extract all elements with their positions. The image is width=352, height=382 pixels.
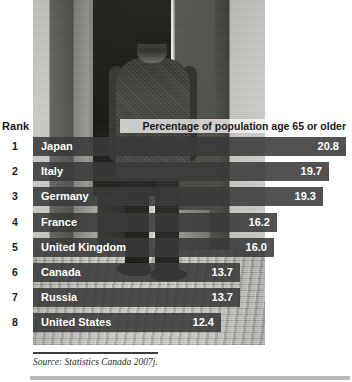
bar-row-rank: 4 (0, 213, 30, 232)
bar-row: 3Germany19.3 (0, 187, 352, 206)
bottom-divider-rule (30, 376, 350, 380)
bar-value-label: 13.7 (212, 263, 233, 282)
bar-row: 5United Kingdom16.0 (0, 238, 352, 257)
bar-country-label: Russia (41, 288, 77, 307)
bar-row: 6Canada13.7 (0, 263, 352, 282)
chart-overlay: Rank Percentage of population age 65 or … (0, 0, 352, 382)
bar-row-rank: 5 (0, 238, 30, 257)
bar-row-rank: 1 (0, 137, 30, 156)
bar-country-label: Japan (41, 137, 73, 156)
bar-country-label: United States (41, 313, 111, 332)
bar-row-rank: 6 (0, 263, 30, 282)
bar: Russia13.7 (33, 288, 240, 307)
bar-value-label: 20.8 (318, 137, 339, 156)
bar-row-rank: 2 (0, 162, 30, 181)
bar-row-rank: 3 (0, 187, 30, 206)
bar-row-rank: 7 (0, 288, 30, 307)
bar-value-label: 13.7 (212, 288, 233, 307)
bar: United States12.4 (33, 313, 221, 332)
source-divider-rule (33, 352, 158, 354)
bar-value-label: 16.0 (246, 238, 267, 257)
bar-value-label: 12.4 (193, 313, 214, 332)
bar-country-label: Canada (41, 263, 81, 282)
bar-value-label: 19.7 (301, 162, 322, 181)
bar-value-label: 16.2 (249, 213, 270, 232)
bar-value-label: 19.3 (295, 187, 316, 206)
bar-country-label: Germany (41, 187, 89, 206)
bar: Canada13.7 (33, 263, 240, 282)
bar-row: 7Russia13.7 (0, 288, 352, 307)
bar-row: 2Italy19.7 (0, 162, 352, 181)
bar: France16.2 (33, 213, 277, 232)
value-column-header: Percentage of population age 65 or older (120, 119, 346, 133)
bar: United Kingdom16.0 (33, 238, 274, 257)
bar-country-label: United Kingdom (41, 238, 126, 257)
bar: Germany19.3 (33, 187, 323, 206)
bar-country-label: Italy (41, 162, 63, 181)
bar-row-rank: 8 (0, 313, 30, 332)
bar: Italy19.7 (33, 162, 329, 181)
source-note: Source: Statistics Canada 2007j. (33, 357, 158, 367)
bar-row: 8United States12.4 (0, 313, 352, 332)
bar-row: 4France16.2 (0, 213, 352, 232)
figure-population-age-65-chart: Rank Percentage of population age 65 or … (0, 0, 352, 382)
bar: Japan20.8 (33, 137, 346, 156)
rank-column-header: Rank (2, 120, 42, 132)
bar-row: 1Japan20.8 (0, 137, 352, 156)
bar-country-label: France (41, 213, 77, 232)
